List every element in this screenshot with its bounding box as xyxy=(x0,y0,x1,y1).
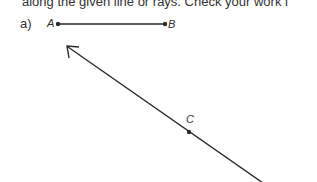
segment-ab xyxy=(56,22,167,26)
point-c xyxy=(187,130,191,134)
ray-through-c xyxy=(67,46,263,182)
point-a xyxy=(56,22,60,26)
geometry-figure xyxy=(0,0,317,182)
point-b xyxy=(163,22,167,26)
